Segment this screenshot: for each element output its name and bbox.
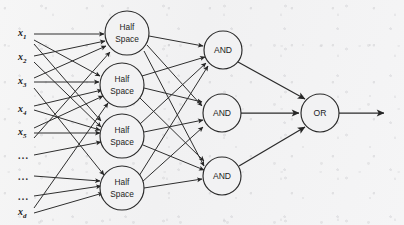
edge-xd-hs2: [34, 103, 108, 208]
input-label-x1-sub: 1: [23, 33, 27, 41]
input-ellipsis-3: ...: [18, 191, 29, 202]
and-node-2-label: AND: [213, 108, 231, 118]
input-label-x5-sub: 5: [23, 132, 27, 140]
halfspace-node-3-circle: [100, 114, 144, 158]
halfspace-node-1-circle: [105, 11, 149, 55]
halfspace-node-3-label-line2: Space: [110, 137, 134, 147]
halfspace-node-4-label-line1: Half: [115, 177, 130, 187]
edge-hs1-and1: [149, 36, 203, 46]
edge-hs3-and1: [140, 63, 206, 124]
input-label-x2-sub: 2: [23, 57, 27, 65]
edge-x1-hs2: [34, 40, 100, 76]
input-label-x2: x2: [18, 51, 27, 65]
halfspace-node-3-label-line1: Half: [115, 125, 130, 135]
halfspace-node-1[interactable]: Half Space: [105, 11, 149, 55]
input-label-x1: x1: [18, 27, 27, 41]
input-label-xd: xd: [18, 206, 27, 220]
halfspace-node-2-circle: [100, 63, 144, 107]
halfspace-node-1-label-line2: Space: [115, 34, 139, 44]
and-node-3-label: AND: [213, 171, 231, 181]
network-diagram-figure: Half Space Half Space Half Space Half Sp…: [0, 0, 404, 225]
edge-group-input-to-halfspace: [34, 34, 110, 213]
edge-dots1-hs3: [34, 142, 101, 155]
input-label-x4: x4: [18, 103, 27, 117]
edge-x2-hs3: [34, 62, 101, 127]
halfspace-node-2[interactable]: Half Space: [100, 63, 144, 107]
edge-x2-hs1: [34, 41, 105, 56]
edge-x4-hs2: [34, 90, 102, 106]
halfspace-node-2-label-line2: Space: [110, 86, 134, 96]
edge-group-halfspace-to-and: [139, 36, 208, 188]
input-ellipsis-1: ...: [18, 150, 29, 161]
halfspace-node-4-label-line2: Space: [110, 189, 134, 199]
halfspace-node-4-circle: [100, 166, 144, 210]
and-node-2[interactable]: AND: [203, 94, 241, 132]
network-graph-canvas: Half Space Half Space Half Space Half Sp…: [0, 0, 404, 225]
and-node-1[interactable]: AND: [204, 31, 242, 69]
edge-and3-or: [239, 127, 305, 166]
halfspace-node-4[interactable]: Half Space: [100, 166, 144, 210]
or-node[interactable]: OR: [301, 94, 339, 132]
edge-hs1-and2: [147, 45, 202, 106]
edge-hs2-and3: [140, 98, 204, 161]
input-label-x4-sub: 4: [23, 109, 27, 117]
halfspace-node-2-label-line1: Half: [115, 74, 130, 84]
edge-hs4-and3: [144, 179, 202, 188]
edge-dots2-hs4: [34, 176, 100, 181]
edge-xd-hs4: [34, 193, 103, 213]
edge-hs4-and2: [142, 127, 203, 182]
input-label-x3-sub: 3: [23, 81, 27, 89]
and-node-1-label: AND: [214, 45, 232, 55]
input-ellipsis-2: ...: [18, 171, 29, 182]
halfspace-node-1-label-line1: Half: [120, 22, 135, 32]
input-label-x5: x5: [18, 126, 27, 140]
edge-x3-hs4-long: [34, 88, 104, 175]
or-node-label: OR: [314, 108, 327, 118]
and-node-3[interactable]: AND: [203, 157, 241, 195]
input-label-xd-sub: d: [23, 212, 27, 220]
edge-group-and-to-or: [238, 62, 305, 166]
input-label-x3: x3: [18, 75, 27, 89]
halfspace-node-3[interactable]: Half Space: [100, 114, 144, 158]
edge-and1-or: [238, 62, 305, 99]
